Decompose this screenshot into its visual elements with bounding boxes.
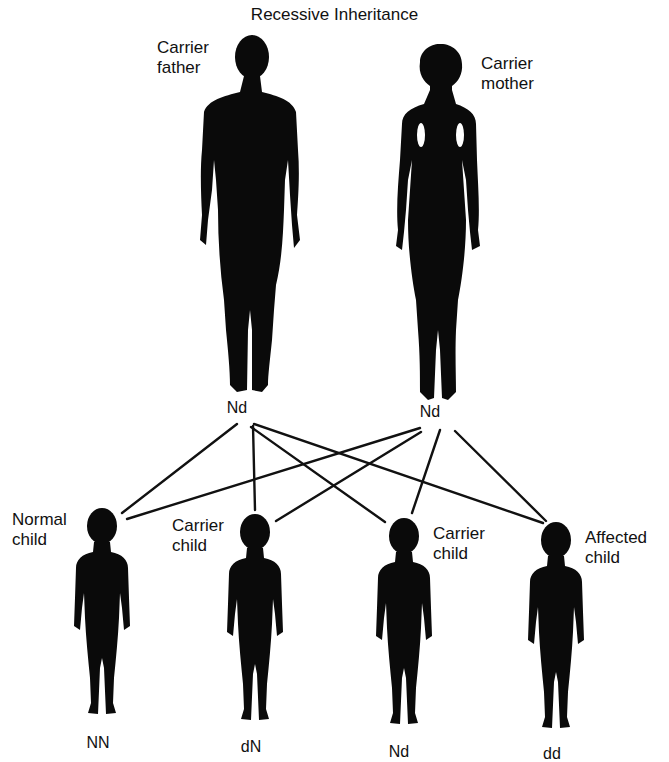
child4-label: Affected child [585, 528, 647, 568]
line-father-to-child2 [253, 426, 255, 510]
mother-genotype: Nd [405, 403, 455, 421]
mother-silhouette [396, 44, 480, 400]
line-mother-to-child3 [412, 430, 440, 513]
child3-label: Carrier child [433, 524, 485, 564]
father-label: Carrier father [157, 38, 209, 78]
child1-silhouette [74, 508, 130, 714]
father-genotype: Nd [212, 399, 262, 417]
child2-label: Carrier child [172, 516, 224, 556]
line-mother-to-child2 [276, 432, 421, 521]
line-father-to-child1 [122, 424, 237, 513]
inheritance-lines [122, 424, 546, 523]
father-silhouette [200, 35, 300, 392]
child3-silhouette [376, 518, 432, 724]
child2-genotype: dN [226, 738, 276, 756]
child2-silhouette [227, 514, 283, 720]
pedigree-diagram [0, 0, 669, 762]
child4-silhouette [528, 522, 584, 728]
child1-genotype: NN [73, 734, 123, 752]
child1-label: Normal child [12, 510, 67, 550]
child3-genotype: Nd [374, 743, 424, 761]
diagram-title: Recessive Inheritance [0, 5, 669, 25]
mother-label: Carrier mother [481, 54, 534, 94]
child4-genotype: dd [527, 745, 577, 762]
